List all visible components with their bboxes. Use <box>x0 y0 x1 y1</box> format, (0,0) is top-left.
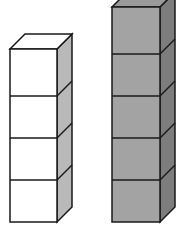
gray-stack-side-face <box>160 0 175 222</box>
cube-stacks-diagram <box>0 0 181 232</box>
white-cube-stack <box>10 34 72 222</box>
gray-stack-front-face <box>112 7 160 222</box>
gray-cube-stack <box>112 0 175 222</box>
white-stack-side-face <box>57 34 72 222</box>
white-stack-front-face <box>10 49 57 222</box>
